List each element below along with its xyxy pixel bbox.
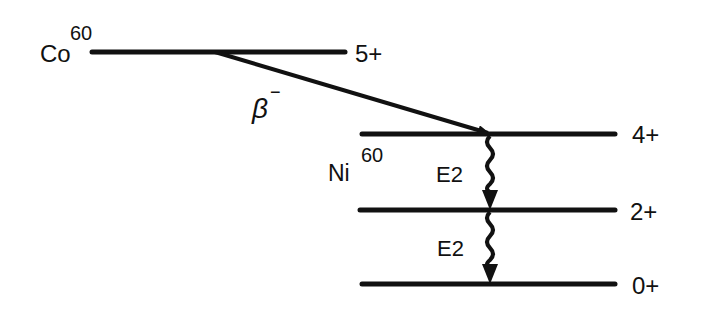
wavy-arrow-icon — [487, 136, 493, 192]
beta-superscript: − — [270, 82, 281, 102]
level-spin-label: 2+ — [630, 198, 657, 225]
level-spin-label: 4+ — [632, 121, 659, 148]
level-0plus: 0+ — [362, 272, 659, 299]
transition-label: E2 — [436, 162, 463, 187]
arrowhead-icon — [482, 190, 498, 210]
daughter-mass-label: 60 — [361, 144, 383, 166]
arrowhead-icon — [482, 264, 498, 284]
gamma-transition-1: E2 — [436, 136, 498, 210]
wavy-arrow-icon — [487, 212, 493, 266]
gamma-transition-2: E2 — [437, 212, 498, 284]
parent-level: Co 60 5+ — [40, 22, 382, 67]
daughter-element-label: Ni — [328, 160, 350, 186]
parent-mass-label: 60 — [70, 22, 92, 44]
parent-spin-label: 5+ — [355, 40, 382, 67]
level-2plus: 2+ — [360, 198, 657, 225]
parent-element-label: Co — [40, 40, 71, 67]
beta-decay: β − — [215, 52, 488, 133]
level-4plus: 4+ — [362, 121, 659, 148]
level-spin-label: 0+ — [632, 272, 659, 299]
transition-label: E2 — [437, 236, 464, 261]
decay-scheme-diagram: Co 60 5+ β − Ni 60 4+ 2+ 0+ E2 E2 — [0, 0, 712, 315]
beta-label: β — [251, 93, 268, 124]
